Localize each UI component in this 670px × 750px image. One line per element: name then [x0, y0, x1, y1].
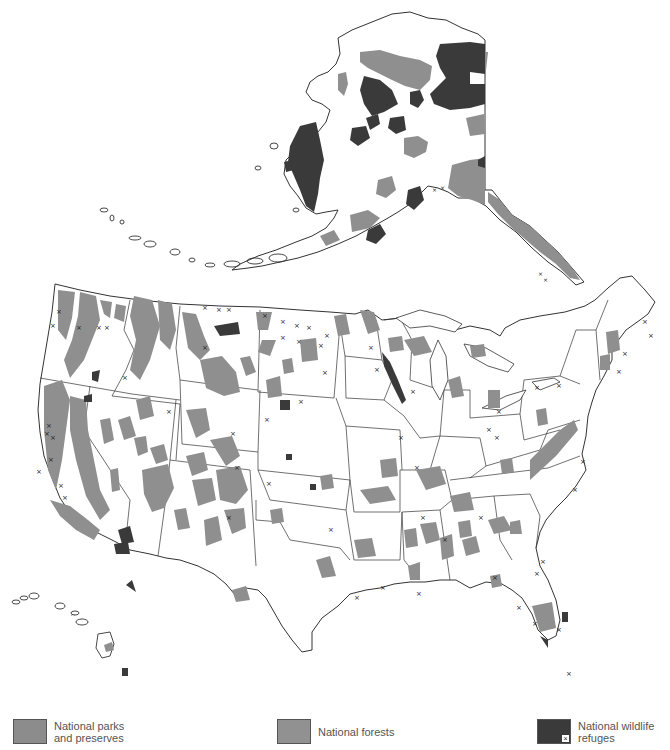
svg-text:×: ×: [416, 590, 422, 598]
legend-item-refuges: × National wildlife refuges: [537, 713, 654, 750]
svg-text:×: ×: [648, 332, 654, 340]
svg-text:×: ×: [202, 304, 208, 312]
svg-text:×: ×: [230, 430, 236, 438]
svg-text:×: ×: [566, 670, 572, 678]
refuge-marker-icon: ×: [562, 735, 569, 742]
svg-text:×: ×: [516, 604, 522, 612]
svg-text:×: ×: [280, 334, 286, 342]
svg-text:×: ×: [216, 306, 222, 314]
map-legend: National parks and preserves National fo…: [0, 713, 670, 750]
svg-text:×: ×: [264, 416, 270, 424]
svg-text:×: ×: [556, 626, 562, 634]
svg-text:×: ×: [368, 344, 374, 352]
svg-text:×: ×: [262, 312, 268, 320]
svg-text:×: ×: [328, 526, 334, 534]
svg-text:×: ×: [398, 434, 404, 442]
svg-text:×: ×: [44, 430, 50, 438]
contiguous-us: ×××× ×××× ×××× ×××× ×××× ×××× ×××× ×××× …: [36, 276, 655, 678]
svg-text:×: ×: [494, 434, 500, 442]
svg-text:×: ×: [58, 482, 64, 490]
forests-swatch: [277, 719, 311, 744]
svg-text:×: ×: [56, 308, 62, 316]
svg-text:×: ×: [48, 456, 54, 464]
svg-text:×: ×: [572, 486, 578, 494]
svg-text:×: ×: [226, 306, 232, 314]
svg-text:×: ×: [266, 480, 272, 488]
svg-text:×: ×: [543, 276, 548, 283]
legend-label-parks: National parks and preserves: [54, 720, 124, 744]
svg-text:×: ×: [322, 369, 328, 377]
svg-text:×: ×: [62, 494, 68, 502]
svg-text:×: ×: [296, 338, 302, 346]
svg-text:×: ×: [580, 458, 586, 466]
svg-text:×: ×: [294, 322, 300, 330]
svg-text:×: ×: [306, 324, 312, 332]
svg-text:×: ×: [642, 318, 648, 326]
svg-text:×: ×: [324, 332, 330, 340]
legend-label-refuges: National wildlife refuges: [578, 720, 654, 744]
svg-text:×: ×: [486, 426, 492, 434]
svg-text:×: ×: [298, 398, 304, 406]
svg-text:×: ×: [432, 186, 437, 193]
svg-text:×: ×: [234, 464, 240, 472]
svg-text:×: ×: [76, 324, 82, 332]
svg-text:×: ×: [616, 368, 622, 376]
svg-text:×: ×: [280, 318, 286, 326]
svg-text:×: ×: [96, 324, 102, 332]
legend-label-forests: National forests: [318, 726, 394, 738]
svg-text:×: ×: [318, 342, 324, 350]
svg-text:×: ×: [410, 388, 416, 396]
svg-text:×: ×: [622, 350, 628, 358]
parks-swatch: [13, 719, 47, 744]
svg-text:×: ×: [374, 366, 380, 374]
svg-text:×: ×: [534, 570, 540, 578]
aleutian-islands: [100, 208, 287, 267]
svg-text:×: ×: [36, 468, 42, 476]
federal-lands-map: ××××: [0, 0, 670, 700]
svg-text:×: ×: [46, 422, 52, 430]
svg-text:×: ×: [534, 384, 540, 392]
svg-text:×: ×: [478, 514, 484, 522]
legend-item-parks: National parks and preserves: [13, 713, 124, 750]
svg-text:×: ×: [380, 584, 386, 592]
svg-text:×: ×: [442, 536, 448, 544]
svg-text:×: ×: [492, 574, 498, 582]
refuges-swatch: ×: [537, 719, 571, 744]
svg-text:×: ×: [202, 344, 208, 352]
svg-text:×: ×: [354, 594, 360, 602]
svg-text:×: ×: [556, 382, 562, 390]
legend-item-forests: National forests: [277, 713, 394, 750]
svg-text:×: ×: [532, 620, 538, 628]
alaska: ××××: [100, 12, 584, 285]
svg-text:×: ×: [104, 324, 110, 332]
svg-text:×: ×: [50, 434, 56, 442]
svg-text:×: ×: [122, 374, 128, 382]
svg-text:×: ×: [50, 322, 56, 330]
svg-text:×: ×: [440, 184, 445, 191]
svg-text:×: ×: [414, 464, 420, 472]
hawaii: [12, 593, 128, 676]
svg-text:×: ×: [540, 558, 546, 566]
svg-text:×: ×: [420, 514, 426, 522]
svg-text:×: ×: [496, 408, 502, 416]
svg-text:×: ×: [226, 514, 232, 522]
svg-text:×: ×: [166, 408, 172, 416]
